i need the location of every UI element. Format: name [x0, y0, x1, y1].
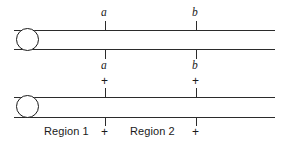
region-2-label: Region 2	[130, 126, 175, 137]
top-marker-label-b: b	[192, 7, 198, 19]
tick-b-below-upper-pipe	[196, 50, 197, 59]
ball-lower-pipe	[16, 95, 39, 118]
tick-a-above-lower-pipe	[105, 88, 106, 97]
ball-upper-pipe	[16, 28, 39, 51]
mid-plus-marker-b: +	[192, 75, 199, 87]
mid-plus-marker-a: +	[101, 75, 108, 87]
mid-marker-label-b: b	[192, 60, 198, 72]
tick-a-above-upper-pipe	[105, 21, 106, 30]
tick-b-above-lower-pipe	[196, 88, 197, 97]
lower-pipe-bottom-line	[14, 117, 275, 118]
upper-pipe-bottom-line	[14, 49, 275, 50]
tick-a-below-upper-pipe	[105, 50, 106, 59]
lower-pipe-top-line	[14, 97, 275, 98]
bottom-plus-marker-b: +	[192, 126, 199, 138]
upper-pipe-top-line	[14, 30, 275, 31]
tick-b-above-upper-pipe	[196, 21, 197, 30]
figure-canvas: a b a b + + Region 1 + Region 2 +	[0, 0, 284, 143]
mid-marker-label-a: a	[101, 60, 107, 72]
region-1-label: Region 1	[44, 126, 89, 137]
top-marker-label-a: a	[101, 7, 107, 19]
bottom-plus-marker-a: +	[101, 126, 108, 138]
